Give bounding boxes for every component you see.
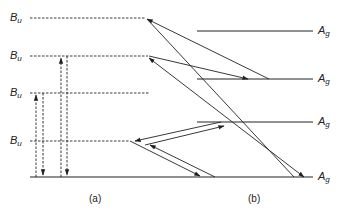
arrow-ag4-to-bu2	[149, 58, 304, 177]
ag-label-1: Ag	[318, 25, 330, 38]
bu-label-3: Bu	[10, 87, 22, 100]
arrow-bu4-to-ag3-b	[145, 126, 224, 145]
energy-level-diagram	[0, 0, 342, 214]
ag-label-2-subscript: g	[325, 77, 329, 86]
bu-label-4-subscript: u	[17, 139, 21, 148]
ag-label-4-subscript: g	[325, 175, 329, 184]
bu-label-4: Bu	[10, 135, 22, 148]
ag-label-3-subscript: g	[325, 120, 329, 129]
caption-b: (b)	[248, 194, 260, 204]
arrow-bu4-to-ground-a	[130, 141, 200, 176]
arrow-bu4-to-ground-b	[150, 145, 215, 177]
ag-label-1-subscript: g	[325, 29, 329, 38]
vertical-transitions	[36, 56, 67, 177]
bu-label-2-subscript: u	[17, 54, 21, 63]
ag-label-4: Ag	[318, 171, 330, 184]
ag-label-3: Ag	[318, 116, 330, 129]
caption-a: (a)	[89, 194, 101, 204]
bu-label-3-subscript: u	[17, 91, 21, 100]
bu-label-1: Bu	[10, 12, 22, 25]
bu-levels	[30, 18, 150, 141]
diagonal-transitions	[130, 19, 304, 177]
arrow-bu4-to-ag3-a	[135, 122, 221, 141]
bu-label-1-subscript: u	[17, 16, 21, 25]
arrow-bu2-to-ag2	[149, 56, 248, 79]
bu-label-2: Bu	[10, 50, 22, 63]
ag-levels	[197, 31, 313, 177]
arrow-ag4-to-bu1	[147, 19, 294, 177]
ag-label-2: Ag	[318, 73, 330, 86]
